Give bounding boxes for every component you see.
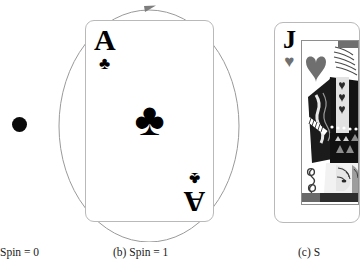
jack-of-hearts-card: J ♥ bbox=[274, 22, 360, 223]
caption-panel-b: (b) Spin = 1 bbox=[113, 246, 168, 258]
clubs-icon: ♣ bbox=[99, 55, 110, 72]
card-corner-top-left: A ♣ bbox=[94, 26, 115, 72]
card-rank-top-left: A bbox=[94, 26, 115, 54]
caption-panel-c: (c) S bbox=[298, 246, 320, 258]
caption-panel-a: Spin = 0 bbox=[0, 246, 39, 258]
jack-corner-top-left: J ♥ bbox=[283, 28, 296, 70]
jack-court-artwork-svg bbox=[302, 41, 359, 205]
spin0-dot bbox=[12, 117, 27, 132]
jack-rank-top-left: J bbox=[283, 28, 296, 52]
ace-of-clubs-card: A ♣ ♣ A ♣ bbox=[85, 20, 214, 222]
rotation-arrowhead-icon bbox=[144, 6, 156, 13]
clubs-icon-inverted: ♣ bbox=[189, 170, 200, 187]
jack-court-artwork bbox=[301, 40, 359, 205]
heart-icon: ♥ bbox=[284, 53, 294, 70]
clubs-center-pip-icon: ♣ bbox=[134, 97, 164, 143]
card-rank-bottom-right: A bbox=[184, 188, 205, 216]
card-corner-bottom-right: A ♣ bbox=[184, 170, 205, 216]
